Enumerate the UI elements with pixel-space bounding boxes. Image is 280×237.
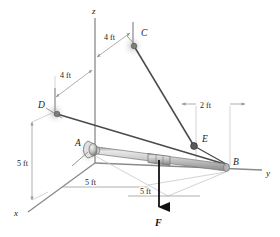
- dim-label-e-to-b: 2 ft: [200, 101, 212, 110]
- z-axis-label: z: [91, 6, 96, 16]
- point-label-c: C: [141, 28, 148, 38]
- dim-label-a-to-mid: 5 ft: [85, 178, 97, 187]
- anchor-node-d: [54, 111, 60, 117]
- statics-figure: z y x 4 ft 4 ft 2 ft 5 ft 5 ft 5 ft: [0, 0, 280, 237]
- point-label-d: D: [37, 100, 45, 110]
- point-label-b: B: [233, 157, 239, 167]
- ball-joint-a: [89, 144, 97, 156]
- dim-label-mid-to-b: 5 ft: [140, 187, 152, 196]
- y-axis-label: y: [265, 168, 270, 178]
- dim-label-z-to-c: 4 ft: [104, 33, 116, 42]
- dim-label-d-to-z: 4 ft: [60, 71, 72, 80]
- figure-canvas: z y x 4 ft 4 ft 2 ft 5 ft 5 ft 5 ft: [0, 0, 280, 237]
- point-label-a: A: [74, 138, 81, 148]
- force-label-f: F: [154, 217, 162, 228]
- rod-end-cap-b: [224, 164, 230, 172]
- anchor-node-c: [131, 43, 137, 49]
- ground-projection-tick: [148, 185, 168, 196]
- cable-collar-e: [191, 143, 198, 150]
- cable-c-to-e: [134, 46, 194, 146]
- point-label-e: E: [201, 134, 208, 144]
- ground-projection-edge: [168, 172, 226, 196]
- dim-label-d-height: 5 ft: [17, 159, 29, 168]
- x-axis-line: [28, 163, 95, 212]
- x-axis-label: x: [13, 208, 18, 218]
